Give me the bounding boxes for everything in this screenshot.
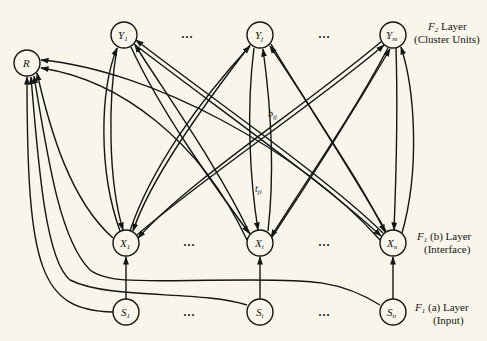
ellipsis-f2-right: …	[318, 27, 331, 41]
node-s1: S1	[113, 299, 139, 325]
ellipsis-f2-left: …	[181, 27, 194, 41]
layer-label-f1b: F1 (b) Layer (Interface)	[416, 230, 472, 256]
edges-s-to-x	[126, 257, 393, 299]
node-sn: Sn	[380, 299, 406, 325]
svg-text:R: R	[22, 57, 30, 69]
node-xi: Xi	[247, 230, 273, 256]
node-xn: Xn	[380, 230, 406, 256]
edges-y-to-x	[111, 41, 397, 238]
svg-text:(Input): (Input)	[433, 314, 464, 327]
ellipsis-f1a-right: …	[318, 305, 331, 319]
svg-text:F1 (a) Layer: F1 (a) Layer	[414, 301, 469, 315]
ellipsis-f1a-left: …	[183, 305, 196, 319]
art1-diagram: bij tji R Y1 Yj Ym X1 Xi Xn S1 Si Sn	[0, 0, 487, 341]
svg-text:(Interface): (Interface)	[424, 243, 471, 256]
edges-to-r	[27, 60, 380, 312]
svg-text:F1 (b) Layer: F1 (b) Layer	[416, 230, 472, 244]
node-r: R	[14, 50, 40, 76]
ellipsis-f1b-left: …	[183, 235, 196, 249]
node-x1: X1	[113, 230, 139, 256]
weight-bij-label: bij	[268, 108, 277, 121]
node-si: Si	[247, 299, 273, 325]
layer-label-f2: F2 Layer (Cluster Units)	[414, 20, 480, 46]
node-y1: Y1	[111, 22, 137, 48]
weight-tji-label: tji	[255, 183, 262, 196]
svg-text:(Cluster Units): (Cluster Units)	[414, 33, 480, 46]
node-yj: Yj	[247, 22, 273, 48]
ellipsis-f1b-right: …	[318, 235, 331, 249]
node-ym: Ym	[380, 22, 406, 48]
svg-text:F2 Layer: F2 Layer	[427, 20, 467, 34]
layer-label-f1a: F1 (a) Layer (Input)	[414, 301, 469, 327]
